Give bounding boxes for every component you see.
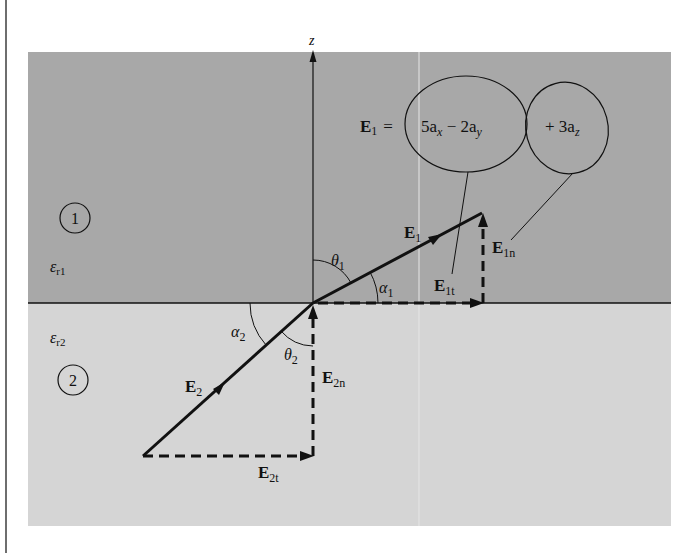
svg-text:2: 2 bbox=[69, 372, 77, 389]
equation-tangential-terms: 5ax − 2ay bbox=[421, 117, 483, 139]
region-2-medium bbox=[28, 303, 671, 526]
z-axis-label: z bbox=[308, 33, 315, 48]
equation-normal-term: + 3az bbox=[545, 117, 580, 139]
boundary-diagram: z 1 2 εr1 εr2 E1= 5ax − 2ay + 3az bbox=[0, 0, 695, 553]
region-1-medium bbox=[28, 52, 671, 303]
svg-text:1: 1 bbox=[71, 210, 79, 227]
